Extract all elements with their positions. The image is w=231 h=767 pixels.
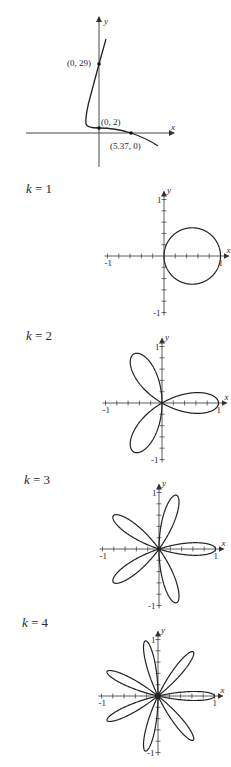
y-tick-label-max: 1 bbox=[155, 342, 160, 352]
x-axis-label: x bbox=[221, 538, 226, 548]
x-tick-label-min: -1 bbox=[100, 551, 108, 561]
polar-plots: -111-1xy-111-1xy-111-1xy-111-1xy bbox=[99, 185, 231, 758]
label-point-5.37-0: (5.37, 0) bbox=[110, 141, 141, 151]
label-k1: k = 1 bbox=[26, 181, 52, 197]
plot-rose-k3: -111-1xy bbox=[100, 478, 226, 611]
label-point-0-2: (0, 2) bbox=[101, 117, 121, 127]
k-value: = 3 bbox=[30, 472, 50, 487]
y-tick-label-max: 1 bbox=[157, 195, 162, 205]
y-tick-label-min: -1 bbox=[151, 455, 159, 465]
x-axis-label: x bbox=[226, 245, 231, 255]
y-tick-label-min: -1 bbox=[148, 601, 156, 611]
x-tick-label-max: 1 bbox=[214, 551, 219, 561]
x-axis-label: x bbox=[224, 392, 229, 402]
point-5.37-0 bbox=[129, 131, 133, 135]
x-tick-label-min: -1 bbox=[99, 698, 107, 708]
y-tick-label-max: 1 bbox=[152, 488, 157, 498]
label-k4: k = 4 bbox=[22, 615, 48, 631]
y-axis-label: y bbox=[161, 478, 166, 488]
x-axis-label: x bbox=[220, 685, 225, 695]
curve-line bbox=[86, 39, 158, 146]
y-axis-label: y bbox=[166, 185, 171, 195]
x-tick-label-min: -1 bbox=[103, 405, 111, 415]
y-tick-label-max: 1 bbox=[151, 635, 156, 645]
k-value: = 4 bbox=[28, 615, 48, 630]
figure-canvas: x y (0, 29) (0, 2) (5.37, 0) -111-1xy-11… bbox=[0, 0, 231, 767]
k-value: = 1 bbox=[32, 181, 52, 196]
plot-rose-k1: -111-1xy bbox=[105, 185, 231, 318]
label-k3: k = 3 bbox=[24, 472, 50, 488]
plot-rose-k4: -111-1xy bbox=[99, 625, 225, 758]
y-tick-label-min: -1 bbox=[153, 308, 161, 318]
y-axis-label: y bbox=[164, 332, 169, 342]
k-value: = 2 bbox=[32, 328, 52, 343]
plot-curve: x y (0, 29) (0, 2) (5.37, 0) bbox=[26, 16, 175, 167]
x-axis-label: x bbox=[170, 122, 175, 132]
point-0-29 bbox=[97, 62, 101, 66]
plot-rose-k2: -111-1xy bbox=[103, 332, 229, 465]
x-tick-label-min: -1 bbox=[105, 258, 113, 268]
y-axis-label: y bbox=[160, 625, 165, 635]
label-k2: k = 2 bbox=[26, 328, 52, 344]
figure-stage: x y (0, 29) (0, 2) (5.37, 0) -111-1xy-11… bbox=[0, 0, 231, 767]
label-point-0-29: (0, 29) bbox=[67, 58, 91, 68]
y-axis-label: y bbox=[103, 16, 108, 26]
x-tick-label-max: 1 bbox=[213, 698, 218, 708]
